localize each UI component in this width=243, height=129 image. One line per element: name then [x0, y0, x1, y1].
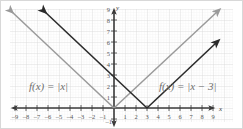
svg-text:1: 1 [107, 94, 110, 101]
svg-text:–7: –7 [33, 113, 41, 120]
svg-text:–9: –9 [11, 113, 19, 120]
svg-text:5: 5 [107, 50, 110, 57]
svg-text:9: 9 [211, 113, 214, 120]
svg-text:5: 5 [167, 113, 170, 120]
svg-text:–3: –3 [77, 113, 85, 120]
coordinate-plane: –9–8 –7–6 –5–4 –3–2 –1 12 34 56 78 9 12 … [1, 1, 243, 129]
svg-text:2: 2 [134, 113, 137, 120]
svg-text:9: 9 [107, 6, 110, 13]
grid-major [10, 9, 233, 122]
svg-text:3: 3 [145, 113, 148, 120]
svg-text:–6: –6 [44, 113, 52, 120]
svg-text:8: 8 [200, 113, 203, 120]
svg-text:2: 2 [107, 83, 110, 90]
graph-figure: –9–8 –7–6 –5–4 –3–2 –1 12 34 56 78 9 12 … [0, 0, 243, 129]
svg-text:–1: –1 [105, 118, 113, 125]
svg-text:–5: –5 [55, 113, 63, 120]
function-label-left: f(x) = |x| [29, 80, 68, 92]
function-label-right: f(x) = |x − 3| [159, 80, 217, 92]
svg-text:–4: –4 [66, 113, 74, 120]
svg-text:–2: –2 [88, 113, 96, 120]
svg-text:–8: –8 [22, 113, 30, 120]
svg-text:8: 8 [107, 17, 110, 24]
svg-text:1: 1 [123, 113, 126, 120]
